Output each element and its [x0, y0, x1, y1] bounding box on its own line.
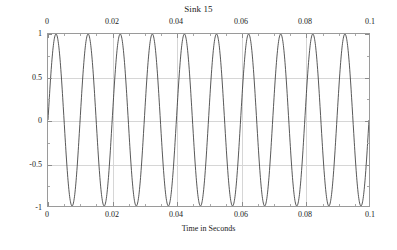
x-axis-tick-minor [193, 204, 194, 206]
chart-title: Sink 15 [0, 4, 397, 14]
y-axis-tick-minor [48, 99, 50, 100]
y-tick-label: 0 [16, 116, 42, 125]
scope-plot-window: Sink 15 Amplitude Time in Seconds 000.02… [0, 0, 397, 250]
y-tick-label: 1 [16, 29, 42, 38]
y-axis-tick [48, 78, 52, 79]
x-axis-tick-minor [290, 34, 291, 36]
x-tick-label-top: 0.08 [298, 17, 312, 26]
x-axis-tick [113, 202, 114, 206]
x-tick-label-top: 0.06 [234, 17, 248, 26]
x-axis-tick-minor [210, 204, 211, 206]
x-axis-tick-minor [145, 204, 146, 206]
x-tick-label-top: 0.02 [105, 17, 119, 26]
x-axis-tick-minor [193, 34, 194, 36]
x-axis-tick-minor [226, 34, 227, 36]
x-axis-tick-minor [258, 204, 259, 206]
y-axis-tick-minor [367, 56, 369, 57]
y-tick-label: -1 [16, 203, 42, 212]
y-axis-tick-minor [48, 56, 50, 57]
x-axis-tick-minor [274, 204, 275, 206]
plot-inner [48, 34, 369, 206]
x-axis-tick-minor [339, 204, 340, 206]
x-tick-label-top: 0.1 [365, 17, 375, 26]
x-axis-tick-minor [355, 34, 356, 36]
y-axis-tick [48, 34, 52, 35]
x-axis-tick-minor [145, 34, 146, 36]
x-axis-tick [242, 34, 243, 38]
x-axis-tick-minor [323, 204, 324, 206]
x-tick-label-bottom: 0.04 [169, 210, 183, 219]
x-axis-tick-minor [339, 34, 340, 36]
x-axis-tick-minor [64, 34, 65, 36]
x-axis-tick [306, 34, 307, 38]
y-axis-tick-minor [367, 143, 369, 144]
x-axis-tick [48, 202, 49, 206]
x-tick-label-top: 0 [45, 17, 49, 26]
x-axis-tick [306, 202, 307, 206]
x-axis-tick [177, 34, 178, 38]
y-axis-tick [365, 121, 369, 122]
x-axis-tick-minor [274, 34, 275, 36]
x-axis-tick-minor [355, 204, 356, 206]
y-axis-tick-minor [48, 143, 50, 144]
x-axis-tick-minor [96, 204, 97, 206]
x-axis-tick-minor [129, 204, 130, 206]
y-axis-tick [365, 165, 369, 166]
x-tick-label-top: 0.04 [169, 17, 183, 26]
x-axis-tick-minor [129, 34, 130, 36]
x-axis-tick-minor [64, 204, 65, 206]
y-tick-label: 0.5 [16, 73, 42, 82]
x-axis-tick [113, 34, 114, 38]
y-axis-tick [365, 34, 369, 35]
x-tick-label-bottom: 0.1 [365, 210, 375, 219]
x-axis-tick-minor [161, 204, 162, 206]
x-axis-tick-minor [80, 204, 81, 206]
x-axis-title: Time in Seconds [47, 224, 370, 233]
y-tick-label: -0.5 [16, 160, 42, 169]
y-axis-tick [48, 121, 52, 122]
x-tick-label-bottom: 0 [45, 210, 49, 219]
x-axis-tick [242, 202, 243, 206]
x-axis-tick-minor [226, 204, 227, 206]
plot-area[interactable] [47, 33, 370, 207]
y-axis-tick [48, 165, 52, 166]
x-axis-tick-minor [161, 34, 162, 36]
y-axis-tick-minor [367, 186, 369, 187]
x-axis-tick-minor [258, 34, 259, 36]
x-tick-label-bottom: 0.02 [105, 210, 119, 219]
y-axis-tick-minor [48, 186, 50, 187]
x-axis-tick-minor [80, 34, 81, 36]
x-axis-tick-minor [323, 34, 324, 36]
y-axis-tick [365, 78, 369, 79]
x-axis-tick-minor [290, 204, 291, 206]
x-axis-tick-minor [96, 34, 97, 36]
x-tick-label-bottom: 0.06 [234, 210, 248, 219]
x-axis-tick-minor [210, 34, 211, 36]
waveform-trace [48, 34, 369, 206]
x-tick-label-bottom: 0.08 [298, 210, 312, 219]
y-axis-tick-minor [367, 99, 369, 100]
x-axis-tick [177, 202, 178, 206]
